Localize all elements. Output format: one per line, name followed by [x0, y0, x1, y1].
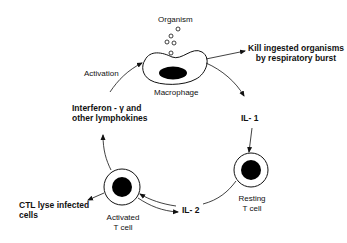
- interferon-label: Interferon - γ and other lymphokines: [72, 103, 148, 123]
- kill-label: Kill ingested organisms by respiratory b…: [247, 43, 345, 63]
- arrow-il1-to-resting: [249, 128, 252, 152]
- diagram-canvas: Organism Macrophage Kill ingested organi…: [0, 0, 347, 243]
- arrow-to-ctl: [88, 193, 104, 200]
- activated-t-cell: [104, 169, 140, 205]
- arrow-to-kill: [206, 51, 245, 59]
- resting-t-cell: [234, 153, 268, 187]
- macrophage-cell: [143, 51, 207, 85]
- ctl-label-line1: CTL lyse infected: [19, 200, 89, 210]
- organism-label: Organism: [158, 15, 193, 25]
- ctl-label: CTL lyse infected cells: [19, 200, 89, 220]
- il1-label: IL- 1: [241, 113, 258, 123]
- arrow-il2-to-activated: [140, 194, 176, 206]
- arrow-macrophage-to-il1: [206, 63, 244, 96]
- macrophage-label: Macrophage: [154, 88, 198, 98]
- kill-label-line1: Kill ingested organisms: [247, 43, 345, 53]
- resting-label-line2: T cell: [235, 204, 269, 214]
- ctl-label-line2: cells: [19, 210, 89, 220]
- line-resting-to-il2: [203, 181, 236, 204]
- activated-label-line2: T cell: [103, 223, 143, 233]
- activated-t-cell-label: Activated T cell: [103, 213, 143, 233]
- il2-label: IL- 2: [182, 205, 199, 215]
- activation-label: Activation: [84, 69, 119, 79]
- activated-label-line1: Activated: [103, 213, 143, 223]
- arrow-activated-to-interferon: [103, 135, 111, 170]
- kill-label-line2: by respiratory burst: [247, 53, 345, 63]
- interferon-label-line1: Interferon - γ and: [72, 103, 148, 113]
- resting-t-cell-label: Resting T cell: [235, 194, 269, 214]
- interferon-label-line2: other lymphokines: [72, 113, 148, 123]
- resting-label-line1: Resting: [235, 194, 269, 204]
